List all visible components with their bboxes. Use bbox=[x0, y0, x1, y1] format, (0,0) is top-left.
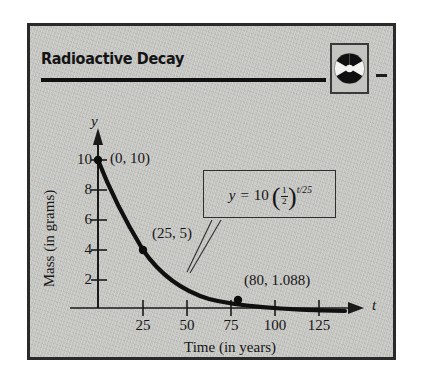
equation-coefficient: 10 bbox=[254, 187, 269, 204]
x-axis-variable: t bbox=[372, 297, 376, 314]
ytick-label-6: 6 bbox=[70, 211, 92, 228]
ytick-label-10: 10 bbox=[70, 151, 92, 168]
dash-mark bbox=[376, 74, 387, 77]
ytick-label-8: 8 bbox=[70, 181, 92, 198]
x-axis-title: Time (in years) bbox=[150, 339, 310, 356]
xtick-label-25: 25 bbox=[129, 317, 157, 334]
fraction-denominator: 2 bbox=[281, 196, 288, 206]
y-axis-variable: y bbox=[91, 113, 98, 130]
point-label-1: (25, 5) bbox=[152, 225, 192, 242]
fraction-numerator: 1 bbox=[281, 186, 288, 195]
equation-exponent: t/25 bbox=[297, 185, 313, 195]
equation-lhs: y bbox=[229, 187, 236, 204]
xtick-label-50: 50 bbox=[173, 317, 201, 334]
equation-fraction: 1 2 bbox=[281, 186, 288, 206]
figure-root: Radioactive Decay bbox=[0, 0, 423, 383]
ytick-label-4: 4 bbox=[70, 241, 92, 258]
equation-equals: = bbox=[240, 187, 248, 204]
radiation-trefoil-icon bbox=[334, 53, 365, 84]
page-title: Radioactive Decay bbox=[41, 50, 184, 68]
xtick-label-100: 100 bbox=[259, 317, 291, 334]
equation-text: y = 10 ( 1 2 ) t/25 bbox=[204, 171, 337, 219]
y-axis-title: Mass (in grams) bbox=[41, 179, 58, 299]
point-label-2: (80, 1.088) bbox=[244, 272, 310, 289]
xtick-label-125: 125 bbox=[303, 317, 335, 334]
point-label-0: (0, 10) bbox=[110, 150, 150, 167]
ytick-label-2: 2 bbox=[70, 271, 92, 288]
xtick-label-75: 75 bbox=[217, 317, 245, 334]
radiation-badge bbox=[330, 43, 369, 94]
equation-callout-box: y = 10 ( 1 2 ) t/25 bbox=[203, 170, 336, 218]
title-underline bbox=[41, 78, 326, 82]
